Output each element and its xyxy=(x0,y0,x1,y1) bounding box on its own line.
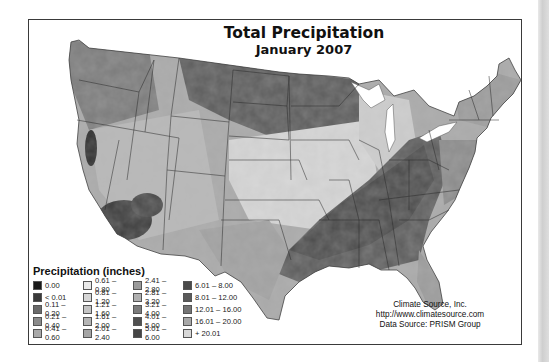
legend-swatch xyxy=(83,329,92,338)
title-main: Total Precipitation xyxy=(189,24,419,42)
legend-swatch xyxy=(133,305,142,314)
legend-item: 6.01 – 8.00 xyxy=(183,280,243,290)
credit-block: Climate Source, Inc. http://www.climates… xyxy=(345,300,515,330)
legend-grid: 0.000.61 – 0.802.41 – 2.806.01 – 8.00< 0… xyxy=(33,280,243,338)
legend-title: Precipitation (inches) xyxy=(33,265,243,277)
legend-swatch xyxy=(133,293,142,302)
legend-swatch xyxy=(83,317,92,326)
legend-swatch xyxy=(33,281,42,290)
legend-item: 16.01 – 20.00 xyxy=(183,316,243,326)
legend-swatch xyxy=(183,317,192,326)
legend-label: 16.01 – 20.00 xyxy=(195,317,241,326)
legend-swatch xyxy=(83,293,92,302)
legend-item: + 20.01 xyxy=(183,328,243,338)
legend-label: 6.01 – 8.00 xyxy=(195,281,233,290)
legend-swatch xyxy=(183,329,192,338)
legend-label: 0.00 xyxy=(45,281,60,290)
legend-swatch xyxy=(183,281,192,290)
legend-label: 8.01 – 12.00 xyxy=(195,293,237,302)
map-title: Total Precipitation January 2007 xyxy=(189,24,419,57)
legend-swatch xyxy=(33,329,42,338)
legend-swatch xyxy=(133,317,142,326)
credit-url: http://www.climatesource.com xyxy=(345,310,515,320)
title-subtitle: January 2007 xyxy=(189,42,419,57)
legend-item: 12.01 – 16.00 xyxy=(183,304,243,314)
credit-company: Climate Source, Inc. xyxy=(345,300,515,310)
credit-data-source: Data Source: PRISM Group xyxy=(345,320,515,330)
legend-item: 0.41 – 0.60 xyxy=(33,328,81,338)
legend-swatch xyxy=(183,293,192,302)
legend-label: 2.01 – 2.40 xyxy=(95,324,131,342)
legend-swatch xyxy=(133,329,142,338)
legend-item: 8.01 – 12.00 xyxy=(183,292,243,302)
legend-swatch xyxy=(83,281,92,290)
legend-label: 12.01 – 16.00 xyxy=(195,305,241,314)
legend-swatch xyxy=(83,305,92,314)
legend-label: + 20.01 xyxy=(195,329,221,338)
legend-label: 5.01 – 6.00 xyxy=(145,324,181,342)
legend-swatch xyxy=(183,305,192,314)
legend-swatch xyxy=(33,317,42,326)
legend-swatch xyxy=(133,281,142,290)
legend-item: 5.01 – 6.00 xyxy=(133,328,181,338)
legend-item: 0.00 xyxy=(33,280,81,290)
map-frame: Total Precipitation January 2007 Precipi… xyxy=(28,19,522,345)
legend-swatch xyxy=(33,293,42,302)
page-edge-strip xyxy=(538,0,549,362)
legend: Precipitation (inches) 0.000.61 – 0.802.… xyxy=(33,265,243,338)
legend-label: 0.41 – 0.60 xyxy=(45,324,81,342)
legend-swatch xyxy=(33,305,42,314)
legend-item: 2.01 – 2.40 xyxy=(83,328,131,338)
